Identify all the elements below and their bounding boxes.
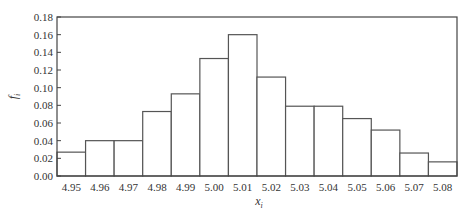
histogram-bar [257, 77, 286, 176]
y-tick-label: 0.02 [34, 152, 53, 164]
histogram-bar [400, 153, 429, 176]
x-tick-label: 5.00 [205, 181, 225, 193]
x-axis-title: xi [254, 194, 263, 210]
x-tick-label: 5.04 [319, 181, 339, 193]
histogram-bar [228, 35, 257, 176]
histogram-bar [171, 94, 200, 176]
histogram-bar [143, 112, 172, 176]
x-tick-label: 5.01 [233, 181, 252, 193]
y-tick-label: 0.12 [34, 64, 53, 76]
histogram-bar [114, 141, 143, 176]
x-tick-label: 5.06 [376, 181, 396, 193]
x-tick-label: 5.08 [433, 181, 453, 193]
x-axis: 4.954.964.974.984.995.005.015.025.035.04… [62, 181, 453, 193]
y-tick-label: 0.06 [34, 117, 54, 129]
histogram-bar [371, 130, 400, 176]
y-tick-label: 0.14 [34, 46, 54, 58]
histogram-bar [428, 162, 457, 176]
histogram-bar [286, 106, 315, 176]
x-tick-label: 4.96 [90, 181, 110, 193]
x-tick-label: 5.03 [290, 181, 310, 193]
x-tick-label: 5.07 [405, 181, 425, 193]
x-tick-label: 4.95 [62, 181, 82, 193]
y-tick-label: 0.04 [34, 135, 54, 147]
y-tick-label: 0.18 [34, 11, 54, 23]
x-tick-label: 4.98 [147, 181, 167, 193]
histogram-bar [57, 152, 86, 176]
x-tick-label: 5.05 [347, 181, 367, 193]
histogram-bar [86, 141, 115, 176]
y-axis-title: fi [6, 94, 22, 100]
x-tick-label: 4.97 [119, 181, 139, 193]
histogram-chart: 0.000.020.040.060.080.100.120.140.160.18… [0, 0, 468, 219]
x-tick-label: 4.99 [176, 181, 196, 193]
y-tick-label: 0.08 [34, 99, 54, 111]
histogram-bar [200, 59, 229, 176]
x-tick-label: 5.02 [262, 181, 281, 193]
y-tick-label: 0.00 [34, 170, 54, 182]
y-tick-label: 0.10 [34, 82, 54, 94]
bars [57, 35, 457, 176]
histogram-bar [343, 119, 372, 176]
histogram-bar [314, 106, 343, 176]
y-tick-label: 0.16 [34, 29, 54, 41]
